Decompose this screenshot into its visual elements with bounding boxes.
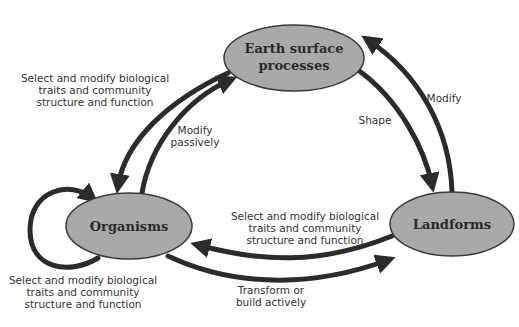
node-earth-label-line1: Earth surface xyxy=(245,41,344,56)
svg-text:Select and modify biological: Select and modify biological xyxy=(21,72,169,84)
svg-text:structure and function: structure and function xyxy=(25,298,142,310)
svg-text:traits and community: traits and community xyxy=(26,286,139,298)
svg-text:Transform or: Transform or xyxy=(237,284,305,296)
label-transform: Transform or build actively xyxy=(236,284,306,308)
label-modify: Modify xyxy=(427,92,462,104)
svg-text:build actively: build actively xyxy=(236,296,306,308)
diagram-canvas: Earth surface processes Organisms Landfo… xyxy=(0,0,519,327)
node-organisms-label: Organisms xyxy=(90,219,168,234)
label-middle: Select and modify biological traits and … xyxy=(231,210,379,246)
arrow-earth-to-landforms xyxy=(358,70,432,185)
svg-text:Modify: Modify xyxy=(178,124,213,136)
svg-text:Select and modify biological: Select and modify biological xyxy=(231,210,379,222)
node-landforms-label: Landforms xyxy=(413,217,491,232)
label-self-loop: Select and modify biological traits and … xyxy=(9,274,157,310)
svg-text:passively: passively xyxy=(171,136,220,148)
node-earth-label-line2: processes xyxy=(258,58,329,73)
node-earth-surface-processes: Earth surface processes xyxy=(224,25,364,91)
svg-text:Select and modify biological: Select and modify biological xyxy=(9,274,157,286)
node-organisms: Organisms xyxy=(66,193,192,259)
svg-text:traits and community: traits and community xyxy=(248,222,361,234)
label-modify-passively: Modify passively xyxy=(171,124,220,148)
label-top-left: Select and modify biological traits and … xyxy=(21,72,169,108)
node-landforms: Landforms xyxy=(390,192,514,256)
label-shape: Shape xyxy=(359,114,392,126)
svg-text:Modify: Modify xyxy=(427,92,462,104)
svg-text:traits and community: traits and community xyxy=(38,84,151,96)
svg-text:Shape: Shape xyxy=(359,114,392,126)
svg-text:structure and function: structure and function xyxy=(37,96,154,108)
svg-text:structure and function: structure and function xyxy=(247,234,364,246)
